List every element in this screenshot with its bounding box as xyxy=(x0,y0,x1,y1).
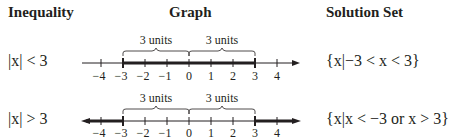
tick-labels-row-2: −4 −3 −2 −1 0 1 2 3 4 xyxy=(93,126,280,139)
svg-text:3: 3 xyxy=(252,126,258,139)
tick-labels-row-1: −4 −3 −2 −1 0 1 2 3 4 xyxy=(93,69,280,83)
svg-text:4: 4 xyxy=(274,126,280,139)
svg-text:−2: −2 xyxy=(137,69,150,83)
number-line-row-1 xyxy=(82,48,300,68)
svg-text:2: 2 xyxy=(230,126,236,139)
brace-label-right-row-2: 3 units xyxy=(206,91,239,105)
svg-text:4: 4 xyxy=(274,69,280,83)
brace-label-right-row-1: 3 units xyxy=(206,33,239,47)
svg-text:−3: −3 xyxy=(115,126,128,139)
svg-text:−3: −3 xyxy=(115,69,128,83)
svg-text:−1: −1 xyxy=(159,69,172,83)
svg-text:1: 1 xyxy=(208,69,214,83)
svg-text:−2: −2 xyxy=(137,126,150,139)
svg-text:1: 1 xyxy=(208,126,214,139)
svg-text:−4: −4 xyxy=(93,69,106,83)
brace-label-left-row-1: 3 units xyxy=(140,33,173,47)
svg-text:3: 3 xyxy=(252,69,258,83)
svg-text:−4: −4 xyxy=(93,126,106,139)
svg-text:0: 0 xyxy=(186,69,192,83)
svg-text:2: 2 xyxy=(230,69,236,83)
svg-text:−1: −1 xyxy=(159,126,172,139)
number-line-row-2 xyxy=(81,106,301,126)
svg-text:0: 0 xyxy=(186,126,192,139)
brace-label-left-row-2: 3 units xyxy=(140,91,173,105)
